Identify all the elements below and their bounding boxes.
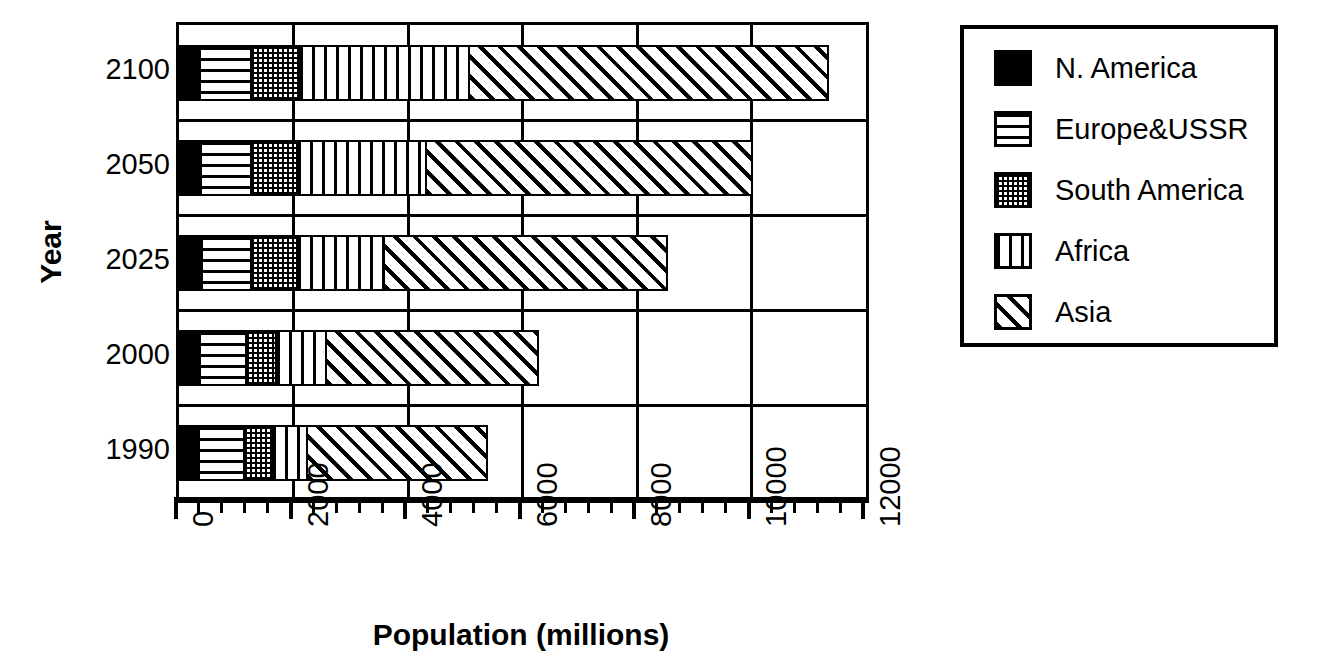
x-major-tick-10000 xyxy=(747,497,751,519)
bar-row-2100[interactable] xyxy=(179,45,866,101)
bar-segment-2000-n-america[interactable] xyxy=(179,330,201,386)
bar-segment-2100-europe-ussr[interactable] xyxy=(199,45,252,101)
x-minor-tick xyxy=(816,501,819,513)
bar-row-2000[interactable] xyxy=(179,330,866,386)
x-minor-tick xyxy=(541,501,544,513)
plot-area xyxy=(176,22,869,503)
legend-item-europe-ussr[interactable]: Europe&USSR xyxy=(994,108,1248,150)
chart-legend: N. AmericaEurope&USSRSouth AmericaAfrica… xyxy=(960,25,1278,347)
gridline-horizontal xyxy=(179,214,866,217)
bar-segment-2000-asia[interactable] xyxy=(325,330,539,386)
x-minor-tick xyxy=(770,501,773,513)
legend-label: N. America xyxy=(1055,53,1197,83)
y-tick-label-2000: 2000 xyxy=(52,340,170,369)
population-stacked-bar-chart: Year 21002050202520001990 02000400060008… xyxy=(0,0,1337,671)
x-minor-tick xyxy=(426,501,429,513)
x-minor-tick xyxy=(839,501,842,513)
x-minor-tick xyxy=(793,501,796,513)
legend-label: Asia xyxy=(1055,297,1111,327)
x-tick-label-4000: 4000 xyxy=(418,462,447,527)
bar-segment-2000-europe-ussr[interactable] xyxy=(199,330,247,386)
legend-swatch-icon xyxy=(994,111,1032,147)
legend-swatch-icon xyxy=(994,50,1032,86)
x-major-tick-12000 xyxy=(861,497,865,519)
legend-item-n-america[interactable]: N. America xyxy=(994,47,1197,89)
x-major-tick-0 xyxy=(174,497,178,519)
x-minor-tick xyxy=(266,501,269,513)
bar-segment-2025-n-america[interactable] xyxy=(179,235,203,291)
x-minor-tick xyxy=(701,501,704,513)
bar-segment-1990-europe-ussr[interactable] xyxy=(198,425,245,481)
bar-segment-2025-asia[interactable] xyxy=(383,235,668,291)
x-major-tick-4000 xyxy=(403,497,407,519)
legend-label: Africa xyxy=(1055,236,1129,266)
gridline-horizontal xyxy=(179,309,866,312)
plot-inner xyxy=(179,25,866,500)
x-major-tick-6000 xyxy=(518,497,522,519)
x-minor-tick xyxy=(449,501,452,513)
bar-segment-2100-south-america[interactable] xyxy=(250,45,300,101)
x-major-tick-2000 xyxy=(289,497,293,519)
x-minor-tick xyxy=(197,501,200,513)
bar-segment-2025-africa[interactable] xyxy=(296,235,385,291)
y-axis-tick-labels: 21002050202520001990 xyxy=(30,0,170,671)
bar-segment-2000-africa[interactable] xyxy=(275,330,327,386)
legend-item-asia[interactable]: Asia xyxy=(994,291,1111,333)
x-axis-title: Population (millions) xyxy=(176,618,866,652)
legend-swatch-icon xyxy=(994,172,1032,208)
bar-segment-2025-south-america[interactable] xyxy=(250,235,298,291)
legend-item-south-america[interactable]: South America xyxy=(994,169,1244,211)
legend-swatch-icon xyxy=(994,294,1032,330)
bar-segment-2000-south-america[interactable] xyxy=(245,330,277,386)
bar-segment-2050-africa[interactable] xyxy=(296,140,427,196)
bar-row-2050[interactable] xyxy=(179,140,866,196)
x-tick-label-8000: 8000 xyxy=(647,462,676,527)
x-minor-tick xyxy=(472,501,475,513)
y-tick-label-2050: 2050 xyxy=(52,150,170,179)
bar-segment-2050-asia[interactable] xyxy=(425,140,753,196)
x-minor-tick xyxy=(655,501,658,513)
bar-segment-1990-south-america[interactable] xyxy=(243,425,273,481)
bar-segment-2100-n-america[interactable] xyxy=(179,45,201,101)
bar-segment-2050-n-america[interactable] xyxy=(179,140,202,196)
bar-segment-2100-asia[interactable] xyxy=(468,45,829,101)
y-tick-label-1990: 1990 xyxy=(52,435,170,464)
y-tick-label-2100: 2100 xyxy=(52,55,170,84)
x-tick-label-12000: 12000 xyxy=(876,446,905,527)
x-minor-tick xyxy=(724,501,727,513)
bar-segment-2050-europe-ussr[interactable] xyxy=(200,140,252,196)
x-tick-label-2000: 2000 xyxy=(304,462,333,527)
y-tick-label-2025: 2025 xyxy=(52,245,170,274)
legend-item-africa[interactable]: Africa xyxy=(994,230,1129,272)
x-minor-tick xyxy=(312,501,315,513)
bar-segment-2100-africa[interactable] xyxy=(298,45,470,101)
bar-segment-2025-europe-ussr[interactable] xyxy=(201,235,252,291)
x-minor-tick xyxy=(678,501,681,513)
legend-label: South America xyxy=(1055,175,1244,205)
x-minor-tick xyxy=(358,501,361,513)
x-tick-label-6000: 6000 xyxy=(533,462,562,527)
legend-swatch-icon xyxy=(994,233,1032,269)
gridline-horizontal xyxy=(179,119,866,122)
x-tick-label-10000: 10000 xyxy=(762,446,791,527)
x-major-tick-8000 xyxy=(632,497,636,519)
x-minor-tick xyxy=(564,501,567,513)
x-minor-tick xyxy=(587,501,590,513)
x-minor-tick xyxy=(335,501,338,513)
bar-segment-1990-n-america[interactable] xyxy=(179,425,200,481)
x-minor-tick xyxy=(610,501,613,513)
x-minor-tick xyxy=(381,501,384,513)
x-minor-tick xyxy=(495,501,498,513)
legend-label: Europe&USSR xyxy=(1055,114,1248,144)
x-minor-tick xyxy=(220,501,223,513)
x-minor-tick xyxy=(243,501,246,513)
x-tick-label-0: 0 xyxy=(189,511,218,527)
bar-segment-2050-south-america[interactable] xyxy=(250,140,298,196)
gridline-horizontal xyxy=(179,404,866,407)
bar-row-2025[interactable] xyxy=(179,235,866,291)
